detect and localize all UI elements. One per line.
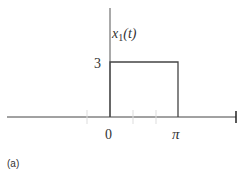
pulse-signal <box>110 62 178 117</box>
x-tick-label-pi: π <box>172 126 180 142</box>
pulse-diagram: x1(t) 3 0 π (a) <box>0 0 237 186</box>
y-axis-label: x1(t) <box>111 26 137 43</box>
y-tick-label-3: 3 <box>94 56 101 71</box>
x-tick-label-0: 0 <box>105 127 112 142</box>
figure-caption: (a) <box>7 158 19 169</box>
